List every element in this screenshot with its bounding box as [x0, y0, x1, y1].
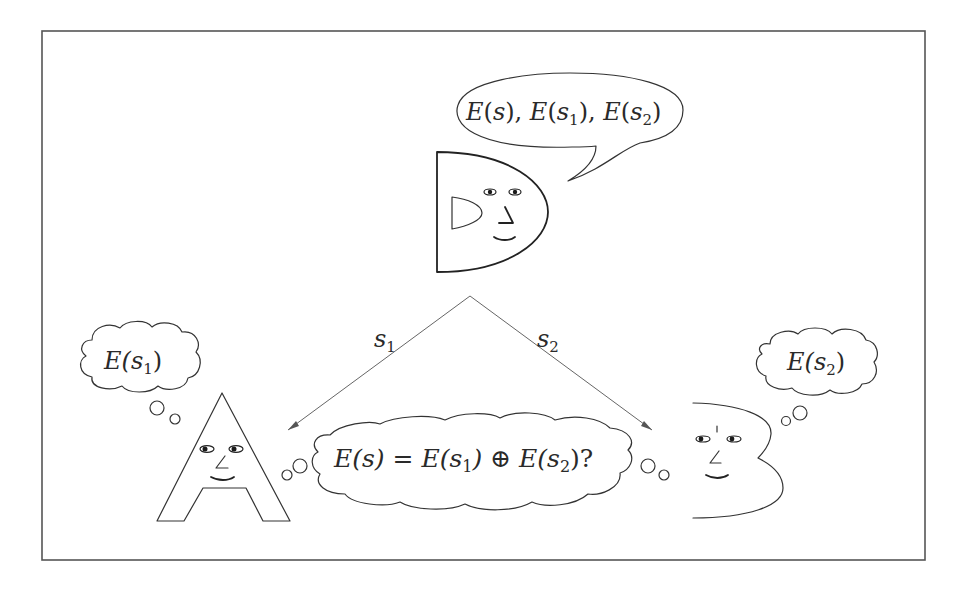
thought-bubble-shared-right-large: [641, 459, 655, 473]
party-a-nose: [216, 456, 228, 468]
party-b-nose: [710, 451, 721, 463]
shared-thought-text: E(s) = E(s1) ⊕ E(s2)?: [333, 444, 593, 476]
dealer-nose: [499, 207, 513, 223]
speech-text: E(s), E(s1), E(s2): [465, 98, 661, 129]
arrow-head-b-icon: [641, 421, 652, 430]
letter-a-outline: [157, 393, 290, 521]
arrow-to-b: [470, 296, 652, 430]
thought-bubble-b-large: [793, 406, 807, 420]
party-a-mouth: [211, 477, 234, 480]
secret-sharing-diagram: E(s), E(s1), E(s2) s1 s2 E(s1): [0, 0, 969, 591]
arrow-to-a: [288, 296, 470, 430]
letter-b-outline: [693, 403, 783, 518]
arrow-label-s1: s1: [374, 325, 396, 356]
share-arrows: s1 s2: [288, 296, 652, 430]
party-a-eyes: [200, 446, 243, 453]
party-b-mouth: [706, 475, 728, 478]
thought-bubble-b-small: [782, 417, 791, 426]
thought-bubble-shared-right-small: [659, 470, 669, 480]
thought-bubble-a-large: [150, 401, 164, 415]
party-b-figure: E(s2): [693, 328, 877, 518]
thought-bubble-shared-left-large: [293, 459, 307, 473]
party-b-eyes: [696, 436, 741, 442]
dealer-mouth: [494, 237, 515, 240]
thought-bubble-shared-left-small: [282, 470, 292, 480]
thought-bubble-a-small: [170, 414, 180, 424]
dealer-figure: E(s), E(s1), E(s2): [437, 73, 683, 272]
thought-text-b: E(s2): [786, 348, 845, 379]
party-a-figure: E(s1): [81, 321, 290, 521]
letter-d-outline: [437, 152, 548, 272]
letter-d-counter: [452, 197, 482, 229]
arrow-label-s2: s2: [537, 325, 559, 356]
dealer-eyes: [484, 189, 521, 195]
shared-thought: E(s) = E(s1) ⊕ E(s2)?: [282, 413, 669, 510]
thought-text-a: E(s1): [103, 347, 162, 378]
arrow-head-a-icon: [288, 421, 299, 430]
